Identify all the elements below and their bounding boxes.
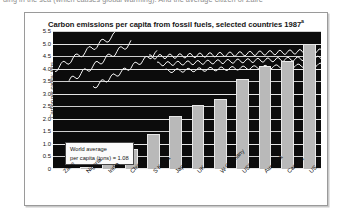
page-body-text-cutoff: ding in the sea (which causes global war… [0,0,350,9]
bar-japan[interactable] [169,116,182,169]
bar-slot [276,31,298,169]
bar-w-germany[interactable] [214,99,227,169]
annotation-line-1: World average [70,145,129,153]
y-tick-label: 5.0 [31,41,51,47]
x-axis-tick-labels: ZaireNigeriaIndiaChinaS KoreaJapanUKW Ge… [53,170,321,204]
y-axis-tick-labels: 5.55.04.54.03.53.02.52.01.51.00.50 [31,13,51,173]
y-tick-label: 1.0 [31,141,51,147]
bar-australia[interactable] [259,66,272,169]
y-tick-label: 2.0 [31,116,51,122]
bar-slot [187,31,209,169]
bar-slot [254,31,276,169]
y-tick-label: 4.0 [31,66,51,72]
bar-slot [232,31,254,169]
cutoff-text: ding in the sea (which causes global war… [3,0,350,4]
plot-area: World average per capita (tons) = 1.08 [53,31,321,169]
bar-slot [209,31,231,169]
y-tick-label: 3.5 [31,78,51,84]
y-tick-label: 3.0 [31,91,51,97]
y-tick-label: 5.5 [31,28,51,34]
chart-title: Carbon emissions per capita from fossil … [25,18,327,29]
y-tick-label: 1.5 [31,128,51,134]
bar-slot [142,31,164,169]
bar-slot [165,31,187,169]
y-tick-label: 4.5 [31,53,51,59]
bar-uk[interactable] [192,105,205,169]
chart-figure: Carbon emissions per capita from fossil … [24,12,328,206]
y-tick-label: 2.5 [31,103,51,109]
bar-slot [299,31,321,169]
chart-title-superscript: a [301,18,304,24]
chart-title-text: Carbon emissions per capita from fossil … [48,20,301,29]
bar-canada[interactable] [281,61,294,169]
bar-us[interactable] [303,44,316,169]
y-tick-label: 0 [31,166,51,172]
y-tick-label: 0.5 [31,153,51,159]
